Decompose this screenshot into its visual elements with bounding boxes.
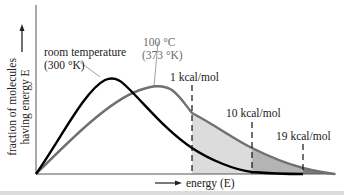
room-temp-label-line1: room temperature bbox=[44, 46, 126, 58]
y-axis-arrow-icon bbox=[20, 24, 25, 31]
threshold-label-19: 19 kcal/mol bbox=[276, 130, 331, 142]
hot-label-line1: 100 °C bbox=[143, 36, 175, 48]
x-axis-label: energy (E) bbox=[186, 177, 235, 189]
room-temp-label-line2: (300 °K) bbox=[44, 59, 85, 71]
y-axis-label: fraction of molecules having energy E bbox=[2, 40, 34, 174]
bottom-border bbox=[0, 191, 344, 195]
diagram-canvas bbox=[0, 0, 344, 195]
y-axis-label-line2: having energy E bbox=[18, 58, 31, 156]
threshold-label-1: 1 kcal/mol bbox=[170, 71, 219, 83]
hot-label-line2: (373 °K) bbox=[142, 49, 183, 61]
energy-distribution-diagram: fraction of molecules having energy E ro… bbox=[0, 0, 344, 195]
threshold-label-10: 10 kcal/mol bbox=[226, 107, 281, 119]
x-axis-arrow-icon bbox=[175, 181, 182, 186]
y-axis-label-line1: fraction of molecules bbox=[6, 58, 19, 156]
